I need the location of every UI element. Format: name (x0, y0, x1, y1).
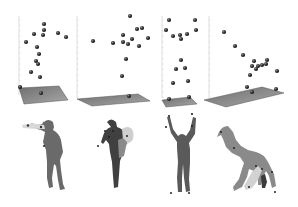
joint-point (233, 44, 237, 48)
joint-point (39, 91, 43, 95)
joint-point (174, 67, 178, 71)
joint-point (260, 63, 264, 67)
joint-point (250, 64, 254, 68)
joint-point (193, 18, 197, 22)
scatter-panels (18, 14, 284, 107)
joint-point (137, 44, 141, 48)
joint-point (222, 30, 226, 34)
pose-silhouette-3 (165, 113, 196, 194)
joint-point (130, 37, 134, 41)
skeleton-figure (0, 0, 298, 207)
scatter-panel-4 (204, 16, 284, 107)
joint-point (38, 75, 42, 79)
scatter-panel-2 (77, 14, 150, 106)
joint-point (250, 90, 254, 94)
joint-point (275, 69, 279, 73)
pose-silhouettes (22, 113, 276, 194)
joint-point (32, 32, 36, 36)
joint-point (127, 94, 131, 98)
joint-point (187, 95, 191, 99)
joint-point (35, 45, 39, 49)
joint-point (245, 85, 249, 89)
pose-silhouette-2 (97, 120, 134, 189)
joint-point (56, 31, 60, 35)
joint-point (36, 62, 40, 66)
joint-point (171, 34, 175, 38)
floor-plane (77, 94, 150, 106)
joint-point (91, 39, 95, 43)
joint-point (241, 53, 245, 57)
joint-point (274, 87, 278, 91)
scatter-panel-3 (162, 16, 198, 107)
joint-point (183, 66, 187, 70)
joint-point (120, 74, 124, 78)
joint-point (167, 97, 171, 101)
joint-point (37, 52, 41, 56)
floor-plane (204, 87, 284, 107)
joint-point (111, 41, 115, 45)
joint-point (265, 58, 269, 62)
joint-point (248, 73, 252, 77)
joint-point (252, 59, 256, 63)
floor-plane (19, 86, 68, 104)
joint-point (121, 40, 125, 44)
joint-point (121, 33, 125, 37)
joint-point (126, 42, 130, 46)
joint-point (264, 62, 268, 66)
joint-point (171, 81, 175, 85)
joint-point (128, 14, 132, 18)
joint-point (64, 35, 68, 39)
joint-point (146, 36, 150, 40)
joint-point (41, 33, 45, 37)
joint-point (185, 32, 189, 36)
joint-point (42, 22, 46, 26)
joint-point (179, 37, 183, 41)
joint-point (167, 18, 171, 22)
joint-point (179, 58, 183, 62)
joint-point (29, 70, 33, 74)
joint-point (42, 28, 46, 32)
pose-silhouette-1 (22, 120, 65, 190)
pose-silhouette-4 (217, 126, 276, 193)
joint-point (178, 33, 182, 37)
joint-point (18, 85, 22, 89)
joint-point (140, 26, 144, 30)
joint-point (24, 40, 28, 44)
joint-point (164, 28, 168, 32)
scatter-panel-1 (18, 16, 68, 104)
joint-point (254, 67, 258, 71)
joint-point (186, 79, 190, 83)
joint-point (124, 57, 128, 61)
joint-point (135, 27, 139, 31)
joint-point (194, 28, 198, 32)
